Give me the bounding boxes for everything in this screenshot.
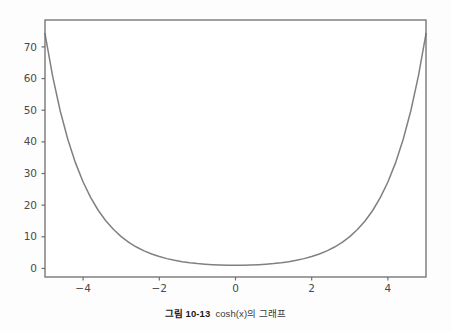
- x-tick-label: 2: [308, 282, 315, 294]
- y-tick-label: 30: [24, 167, 37, 179]
- y-tick-label: 40: [24, 135, 37, 147]
- caption-description: cosh(x)의 그래프: [215, 308, 286, 319]
- figure-caption: 그림 10-13cosh(x)의 그래프: [0, 306, 451, 320]
- x-tick-label: 4: [385, 282, 392, 294]
- x-tick-group: −4−2024: [75, 277, 391, 294]
- x-tick-label: −2: [152, 282, 167, 294]
- plot-area-background: [45, 20, 426, 277]
- y-tick-group: 010203040506070: [24, 41, 45, 275]
- x-tick-label: 0: [232, 282, 239, 294]
- y-tick-label: 0: [30, 262, 37, 274]
- y-tick-label: 70: [24, 41, 37, 53]
- figure-container: 010203040506070 −4−2024 그림 10-13cosh(x)의…: [0, 0, 451, 332]
- x-tick-label: −4: [75, 282, 91, 294]
- y-tick-label: 60: [24, 72, 37, 84]
- y-tick-label: 10: [24, 230, 37, 242]
- caption-figure-number: 그림 10-13: [165, 308, 211, 319]
- y-tick-label: 20: [24, 199, 37, 211]
- cosh-plot: 010203040506070 −4−2024: [0, 0, 451, 332]
- y-tick-label: 50: [24, 104, 37, 116]
